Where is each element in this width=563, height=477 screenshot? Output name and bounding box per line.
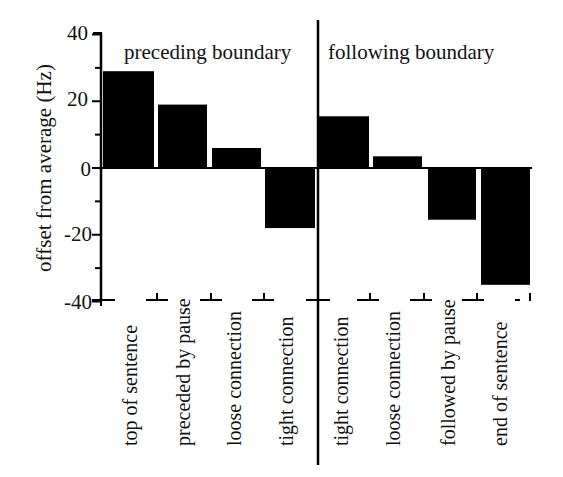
bar-1 xyxy=(103,71,154,168)
category-label-followed-by-pause: followed by pause xyxy=(437,299,460,446)
y-tick-label-neg20: -20 xyxy=(52,222,92,247)
category-label-top-of-sentence: top of sentence xyxy=(119,325,142,446)
group-label-following-boundary: following boundary xyxy=(328,40,494,65)
y-tick-label-20: 20 xyxy=(48,87,88,112)
y-tick-label-0: 0 xyxy=(51,157,91,182)
category-label-preceded-by-pause: preceded by pause xyxy=(172,298,195,446)
bar-4 xyxy=(265,168,315,228)
category-label-end-of-sentence: end of sentence xyxy=(489,322,512,446)
bar-5 xyxy=(319,116,369,168)
y-tick-label-neg40: -40 xyxy=(52,290,92,315)
y-tick-label-40: 40 xyxy=(48,21,88,46)
bar-chart: offset from average (Hz) 40 20 0 -20 -40… xyxy=(0,0,563,477)
bar-3 xyxy=(212,148,261,168)
category-label-tight-connection-following: tight connection xyxy=(330,317,353,446)
bar-6 xyxy=(373,156,422,168)
group-label-preceding-boundary: preceding boundary xyxy=(124,40,291,65)
bar-2 xyxy=(158,105,207,168)
category-label-tight-connection-preceding: tight connection xyxy=(275,317,298,446)
bar-7 xyxy=(428,168,476,220)
bar-8 xyxy=(481,168,530,285)
category-label-loose-connection-following: loose connection xyxy=(382,311,405,446)
category-label-loose-connection-preceding: loose connection xyxy=(223,311,246,446)
